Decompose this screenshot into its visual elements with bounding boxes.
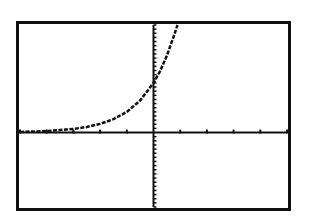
- calculator-graph-screen: [0, 0, 309, 222]
